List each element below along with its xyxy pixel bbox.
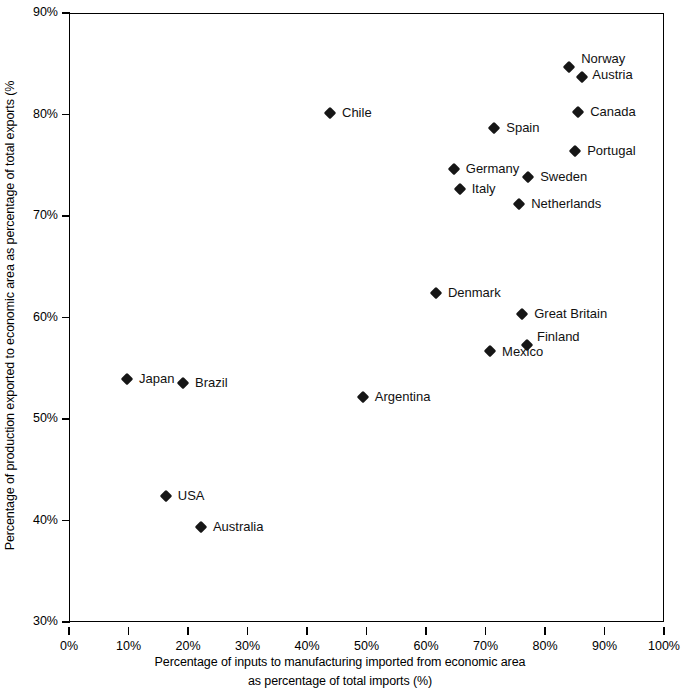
data-point-marker[interactable] xyxy=(195,520,208,533)
data-point-marker[interactable] xyxy=(516,308,529,321)
data-point-marker[interactable] xyxy=(177,377,190,390)
data-point-label: Denmark xyxy=(448,286,501,300)
data-point-marker[interactable] xyxy=(522,171,535,184)
data-point-label: Italy xyxy=(472,182,496,196)
data-point-marker[interactable] xyxy=(356,390,369,403)
data-point-label: Japan xyxy=(139,372,174,386)
plot-area: NorwayAustriaCanadaChileSpainPortugalGer… xyxy=(69,13,664,622)
data-point-label: Austria xyxy=(592,68,632,82)
data-point-marker[interactable] xyxy=(488,121,501,134)
data-point-label: USA xyxy=(178,489,205,503)
data-point-marker[interactable] xyxy=(569,145,582,158)
data-point-label: Sweden xyxy=(540,170,587,184)
data-point-label: Mexico xyxy=(502,345,543,359)
data-point-marker[interactable] xyxy=(453,182,466,195)
x-axis-title-line2: as percentage of total imports (%) xyxy=(40,672,640,691)
data-point-marker[interactable] xyxy=(447,163,460,176)
data-point-marker[interactable] xyxy=(159,490,172,503)
data-point-marker[interactable] xyxy=(430,287,443,300)
data-point-label: Canada xyxy=(590,105,636,119)
data-point-marker[interactable] xyxy=(576,71,589,84)
scatter-chart-figure: Percentage of production exported to eco… xyxy=(0,0,681,695)
data-point-label: Chile xyxy=(342,106,372,120)
data-point-marker[interactable] xyxy=(513,197,526,210)
data-point-label: Argentina xyxy=(375,390,431,404)
data-point-label: Germany xyxy=(466,162,519,176)
data-point-marker[interactable] xyxy=(572,106,585,119)
data-points-layer: NorwayAustriaCanadaChileSpainPortugalGer… xyxy=(1,1,681,695)
data-point-marker[interactable] xyxy=(563,60,576,73)
data-point-label: Brazil xyxy=(195,376,228,390)
data-point-label: Norway xyxy=(581,52,625,66)
x-axis-title: Percentage of inputs to manufacturing im… xyxy=(40,653,640,691)
data-point-label: Australia xyxy=(213,520,264,534)
data-point-marker[interactable] xyxy=(324,107,337,120)
data-point-marker[interactable] xyxy=(121,373,134,386)
data-point-label: Netherlands xyxy=(531,197,601,211)
data-point-marker[interactable] xyxy=(484,345,497,358)
data-point-label: Spain xyxy=(506,121,539,135)
data-point-label: Portugal xyxy=(587,144,635,158)
data-point-label: Great Britain xyxy=(534,307,607,321)
x-axis-title-line1: Percentage of inputs to manufacturing im… xyxy=(155,655,526,669)
data-point-label: Finland xyxy=(537,330,580,344)
